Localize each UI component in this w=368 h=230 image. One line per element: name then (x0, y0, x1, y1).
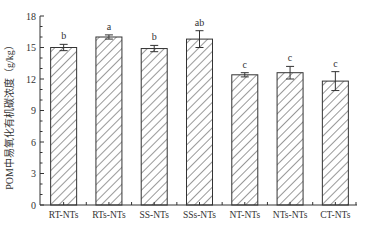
y-tick-label: 3 (31, 168, 36, 179)
bar-group: b (51, 30, 77, 205)
y-tick-label: 12 (26, 74, 36, 85)
significance-label: c (288, 52, 293, 63)
bars: bababccc (51, 17, 349, 205)
x-tick-label: SSs-NTs (183, 210, 216, 220)
bar-group: c (277, 52, 303, 205)
significance-label: ab (195, 17, 204, 28)
y-tick-label: 6 (31, 137, 36, 148)
y-ticks: 0369121518 (26, 11, 44, 211)
significance-label: c (333, 58, 338, 69)
bar-group: c (232, 59, 258, 205)
bar (51, 48, 77, 206)
y-tick-label: 0 (31, 200, 36, 211)
bar (187, 39, 213, 205)
x-tick-label: SS-NTs (139, 210, 169, 220)
bar-chart: POM中易氧化有机碳浓度（g/kg） 0369121518 bababccc R… (0, 0, 368, 230)
y-tick-label: 9 (31, 105, 36, 116)
x-tick-label: NT-NTs (229, 210, 260, 220)
bar-group: b (141, 31, 167, 205)
bar (232, 75, 258, 205)
bar-group: a (96, 21, 122, 205)
significance-label: b (152, 31, 157, 42)
y-tick-label: 18 (26, 11, 36, 22)
bar (277, 73, 303, 205)
significance-label: a (107, 21, 112, 32)
significance-label: c (243, 59, 248, 70)
bar (141, 49, 167, 205)
x-tick-label: RTs-NTs (92, 210, 126, 220)
significance-label: b (61, 30, 66, 41)
bar (322, 81, 348, 205)
y-axis-title-group: POM中易氧化有机碳浓度（g/kg） (3, 40, 15, 189)
y-axis-title: POM中易氧化有机碳浓度（g/kg） (3, 40, 15, 189)
bar-group: c (322, 58, 348, 205)
x-tick-label: NTs-NTs (273, 210, 308, 220)
y-tick-label: 15 (26, 42, 36, 53)
x-tick-label: CT-NTs (320, 210, 350, 220)
bar-group: ab (187, 17, 213, 205)
x-tick-label: RT-NTs (49, 210, 79, 220)
bar (96, 37, 122, 205)
